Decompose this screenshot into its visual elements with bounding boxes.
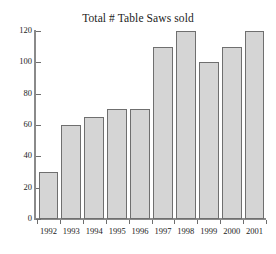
bar: [39, 172, 59, 219]
x-axis-tick-label: 1998: [174, 227, 197, 236]
bar: [222, 47, 242, 219]
x-axis-tick-mark: [83, 220, 84, 224]
x-axis-tick-mark: [266, 220, 267, 224]
bar: [130, 109, 150, 219]
x-axis-tick-label: 1992: [37, 227, 60, 236]
x-axis-tick-label: 1999: [197, 227, 220, 236]
bar-chart-figure: Total # Table Saws sold 020406080100120 …: [0, 0, 276, 254]
bar: [107, 109, 127, 219]
y-axis-tick-label-text: 40: [2, 151, 32, 160]
y-axis-tick-label: 20: [0, 183, 32, 193]
x-axis-tick-label: 1997: [152, 227, 175, 236]
y-axis-tick-label-text: 120: [2, 26, 32, 35]
y-axis-tick-label: 120: [0, 26, 32, 36]
y-axis-tick-label: 0: [0, 214, 32, 224]
bar: [199, 62, 219, 219]
bar: [61, 125, 81, 219]
x-axis-tick-mark: [60, 220, 61, 224]
bar: [245, 31, 265, 219]
y-axis-tick-label: 80: [0, 89, 32, 99]
bar: [84, 117, 104, 219]
y-axis-tick-label: 100: [0, 57, 32, 67]
x-axis-tick-label: 1994: [83, 227, 106, 236]
bar: [153, 47, 173, 219]
x-axis-tick-mark: [129, 220, 130, 224]
x-axis-tick-mark: [152, 220, 153, 224]
x-axis-tick-mark: [106, 220, 107, 224]
plot-area: [37, 31, 266, 219]
y-axis-tick-label-text: 20: [2, 183, 32, 192]
x-axis-tick-label: 1993: [60, 227, 83, 236]
x-axis-tick-mark: [37, 220, 38, 224]
y-axis-tick-label-text: 80: [2, 89, 32, 98]
x-axis-tick-mark: [220, 220, 221, 224]
x-axis-tick-label: 2001: [243, 227, 266, 236]
x-axis-tick-label: 1995: [106, 227, 129, 236]
y-axis-tick-label: 60: [0, 120, 32, 130]
bar: [176, 31, 196, 219]
x-axis-tick-label: 1996: [129, 227, 152, 236]
x-axis-tick-mark: [243, 220, 244, 224]
x-axis-tick-mark: [197, 220, 198, 224]
y-axis-tick-label-text: 100: [2, 57, 32, 66]
x-axis-tick-label: 2000: [220, 227, 243, 236]
y-axis-tick-label-text: 60: [2, 120, 32, 129]
y-axis-tick-label: 40: [0, 151, 32, 161]
chart-title: Total # Table Saws sold: [0, 12, 276, 24]
y-axis-tick-label-text: 0: [2, 214, 32, 223]
x-axis-tick-mark: [174, 220, 175, 224]
